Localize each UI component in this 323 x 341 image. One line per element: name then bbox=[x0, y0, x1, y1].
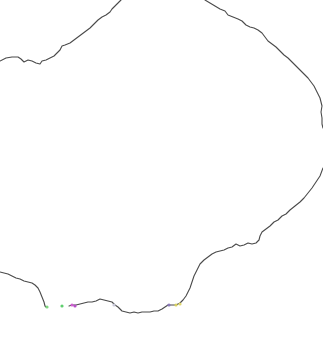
yellow-marker bbox=[174, 303, 177, 306]
purple-marker bbox=[167, 303, 170, 306]
gray-marker bbox=[112, 303, 115, 306]
magenta-marker bbox=[70, 303, 73, 306]
map-canvas bbox=[0, 0, 323, 341]
green-marker-2 bbox=[60, 304, 63, 307]
green-marker bbox=[45, 305, 48, 308]
magenta-marker-2 bbox=[73, 304, 76, 307]
map-background bbox=[0, 0, 323, 341]
yellow-marker-2 bbox=[178, 302, 181, 305]
